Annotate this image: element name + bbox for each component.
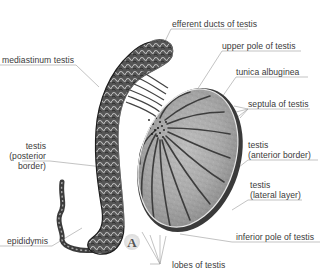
label-anterior-border: testis (anterior border) (248, 140, 311, 160)
testis-anatomy-figure: efferent ducts of testis upper pole of t… (0, 0, 328, 276)
panel-letter-badge: A (124, 234, 140, 250)
label-posterior-border-line1: testis (4, 141, 46, 151)
label-anterior-border-line1: testis (248, 140, 311, 150)
label-lateral-layer-line1: testis (250, 180, 301, 190)
label-posterior-border-line3: border) (4, 161, 46, 171)
testis-shape (120, 74, 261, 246)
label-tunica-albuginea: tunica albuginea (236, 67, 299, 77)
label-mediastinum-testis: mediastinum testis (2, 55, 74, 65)
label-lateral-layer-line2: (lateral layer) (250, 190, 301, 200)
label-upper-pole: upper pole of testis (222, 41, 296, 51)
label-anterior-border-line2: (anterior border) (248, 150, 311, 160)
label-epididymis: epididymis (7, 236, 48, 246)
label-efferent-ducts: efferent ducts of testis (172, 19, 257, 29)
label-septula: septula of testis (248, 99, 309, 109)
label-posterior-border-line2: (posterior (4, 151, 46, 161)
label-lobes: lobes of testis (172, 260, 225, 270)
label-inferior-pole: inferior pole of testis (236, 232, 314, 242)
label-lateral-layer: testis (lateral layer) (250, 180, 301, 200)
label-posterior-border: testis (posterior border) (4, 141, 46, 171)
